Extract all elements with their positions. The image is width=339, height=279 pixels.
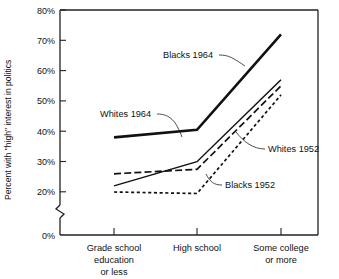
y-tick-label-20: 20% xyxy=(37,187,55,197)
x-label-some-college-line2: or more xyxy=(265,255,297,265)
y-tick-label-60: 60% xyxy=(37,66,55,76)
y-tick-label-70: 70% xyxy=(37,36,55,46)
series-label-whites-1952: Whites 1952 xyxy=(268,144,319,154)
series-label-whites-1964: Whites 1964 xyxy=(100,109,151,119)
y-tick-label-80: 80% xyxy=(37,6,55,16)
line-chart: Percent with "high" interest in politics… xyxy=(0,0,339,279)
x-label-some-college-line1: Some college xyxy=(253,243,309,253)
x-label-high-school: High school xyxy=(173,243,221,253)
y-tick-label-50: 50% xyxy=(37,96,55,106)
y-tick-label-40: 40% xyxy=(37,127,55,137)
y-tick-label-30: 30% xyxy=(37,157,55,167)
y-tick-label-0: 0% xyxy=(42,231,55,241)
chart-container: Percent with "high" interest in politics… xyxy=(0,0,339,279)
x-label-grade-school-line1: Grade school xyxy=(87,243,142,253)
x-label-grade-school-line3: or less xyxy=(100,267,127,277)
x-label-grade-school-line2: education xyxy=(94,255,134,265)
y-axis-title: Percent with "high" interest in politics xyxy=(3,60,13,200)
series-label-blacks-1964: Blacks 1964 xyxy=(163,50,213,60)
series-label-blacks-1952: Blacks 1952 xyxy=(225,180,275,190)
